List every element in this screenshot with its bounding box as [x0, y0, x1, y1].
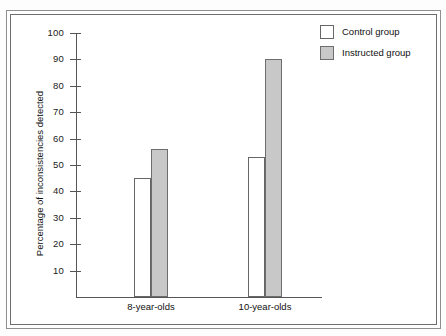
bar-10-year-olds-instructed	[265, 59, 282, 297]
y-tick-100	[70, 33, 81, 34]
y-tick-10	[70, 271, 81, 272]
y-axis-title: Percentage of inconsistencies detected	[34, 59, 45, 289]
x-axis-label-8-year-olds: 8-year-olds	[101, 301, 201, 312]
y-tick-90	[70, 59, 81, 60]
bar-8-year-olds-control	[134, 178, 151, 297]
gray-square-swatch	[320, 46, 334, 60]
y-tick-80	[70, 86, 81, 87]
y-tick-20	[70, 244, 81, 245]
bar-10-year-olds-control	[248, 157, 265, 297]
y-tick-50	[70, 165, 81, 166]
figure-root: 100908070605040302010 Percentage of inco…	[0, 0, 446, 336]
y-tick-30	[70, 218, 81, 219]
white-square-swatch	[320, 25, 334, 39]
y-tick-label-100: 100	[28, 27, 64, 38]
y-tick-60	[70, 139, 81, 140]
x-axis-label-10-year-olds: 10-year-olds	[215, 301, 315, 312]
bar-8-year-olds-instructed	[151, 149, 168, 297]
legend-label-control: Control group	[342, 26, 400, 37]
x-axis-line	[76, 297, 322, 298]
y-tick-70	[70, 112, 81, 113]
plot-area: 100908070605040302010 Percentage of inco…	[0, 0, 446, 336]
legend-label-instructed: Instructed group	[342, 47, 411, 58]
y-tick-40	[70, 191, 81, 192]
